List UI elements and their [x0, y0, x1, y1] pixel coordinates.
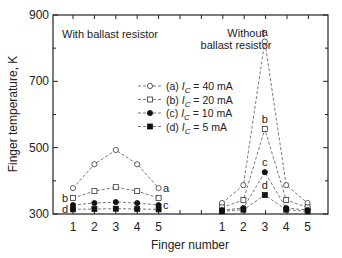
- filled-circle-marker: [113, 199, 118, 204]
- curve-label: c: [163, 199, 169, 211]
- filled-circle-marker: [92, 200, 97, 205]
- curve-label: d: [62, 203, 68, 215]
- open-circle-marker: [92, 162, 97, 167]
- filled-square-marker: [284, 207, 289, 212]
- filled-circle-marker: [147, 110, 152, 115]
- series-line: [222, 172, 308, 210]
- curve-label: d: [262, 179, 268, 191]
- open-square-marker: [135, 189, 140, 194]
- left-panel-title: With ballast resistor: [62, 28, 158, 40]
- y-tick-label: 300: [29, 207, 49, 221]
- open-square-marker: [92, 189, 97, 194]
- open-circle-marker: [135, 162, 140, 167]
- right-panel-title-line2: ballast resistor: [201, 39, 272, 51]
- x-tick-label: 3: [112, 220, 119, 234]
- open-circle-marker: [156, 186, 161, 191]
- filled-square-marker: [305, 209, 310, 214]
- y-tick-label: 700: [29, 74, 49, 88]
- right-panel-title-line1: Without: [227, 27, 264, 39]
- filled-square-marker: [71, 207, 76, 212]
- open-square-marker: [71, 196, 76, 201]
- x-tick-label: 2: [240, 220, 247, 234]
- x-tick-label: 4: [283, 220, 290, 234]
- filled-square-marker: [92, 207, 97, 212]
- x-tick-label: 2: [91, 220, 98, 234]
- filled-square-marker: [148, 124, 153, 129]
- filled-square-marker: [113, 206, 118, 211]
- open-square-marker: [262, 127, 267, 132]
- x-tick-label: 5: [155, 220, 162, 234]
- y-tick-label: 500: [29, 141, 49, 155]
- legend-entry: (d) IC = 5 mA: [166, 121, 227, 136]
- open-square-marker: [148, 97, 153, 102]
- filled-square-marker: [241, 207, 246, 212]
- filled-square-marker: [156, 207, 161, 212]
- y-tick-label: 900: [29, 8, 49, 22]
- y-axis-label: Finger temperature, K: [6, 56, 20, 173]
- curve-label: b: [62, 192, 68, 204]
- open-square-marker: [241, 198, 246, 203]
- x-tick-label: 4: [134, 220, 141, 234]
- open-square-marker: [284, 198, 289, 203]
- open-square-marker: [156, 196, 161, 201]
- open-square-marker: [113, 185, 118, 190]
- x-tick-label: 3: [261, 220, 268, 234]
- x-tick-label: 1: [70, 220, 77, 234]
- filled-circle-marker: [262, 170, 267, 175]
- open-circle-marker: [70, 186, 75, 191]
- filled-square-marker: [220, 209, 225, 214]
- filled-circle-marker: [135, 200, 140, 205]
- open-circle-marker: [241, 183, 246, 188]
- curve-label: a: [163, 182, 170, 194]
- curve-label: c: [262, 156, 268, 168]
- open-circle-marker: [284, 183, 289, 188]
- x-tick-label: 1: [219, 220, 226, 234]
- filled-square-marker: [262, 193, 267, 198]
- x-axis-label: Finger number: [151, 238, 229, 252]
- open-circle-marker: [113, 147, 118, 152]
- open-circle-marker: [147, 83, 152, 88]
- series-line: [73, 150, 159, 188]
- curve-label: b: [262, 113, 268, 125]
- finger-temperature-chart: 3005007009001234512345 abcdabcd With bal…: [0, 0, 342, 258]
- x-tick-label: 5: [304, 220, 311, 234]
- filled-square-marker: [135, 207, 140, 212]
- legend: (a) IC = 40 mA(b) IC = 20 mA(c) IC = 10 …: [138, 80, 233, 136]
